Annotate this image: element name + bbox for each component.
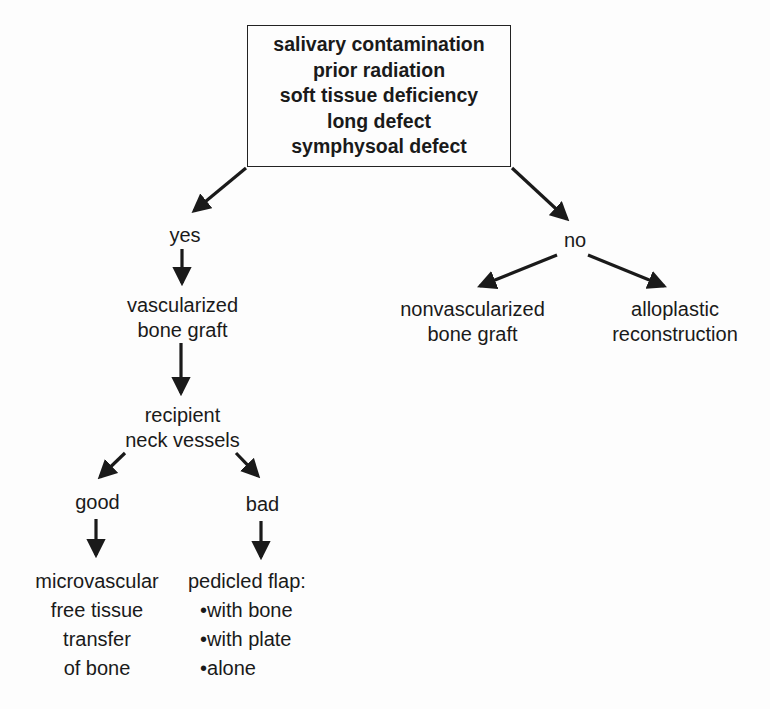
arrow-to-bad <box>236 453 258 476</box>
node-line: transfer <box>14 625 180 654</box>
microvascular-node: microvascular free tissue transfer of bo… <box>14 567 180 683</box>
bullet-item: •with plate <box>200 625 338 654</box>
criterion: prior radiation <box>248 58 510 84</box>
alloplastic-node: alloplastic reconstruction <box>590 297 760 347</box>
bullet-item: •alone <box>200 654 338 683</box>
criterion: soft tissue deficiency <box>248 83 510 109</box>
arrow-to-yes <box>194 168 246 211</box>
pedicled-flap-node: pedicled flap: •with bone •with plate •a… <box>188 567 338 683</box>
arrow-to-alloplastic <box>588 255 664 286</box>
criterion: symphysoal defect <box>248 134 510 160</box>
node-line: recipient <box>100 403 265 428</box>
yes-label: yes <box>155 223 215 248</box>
node-line: nonvascularized <box>375 297 570 322</box>
bad-label: bad <box>235 492 290 517</box>
criteria-box: salivary contamination prior radiation s… <box>247 25 511 167</box>
node-line: bone graft <box>100 318 265 343</box>
arrow-to-no <box>512 168 567 219</box>
bullet-item: •with bone <box>200 596 338 625</box>
node-line: of bone <box>14 654 180 683</box>
node-line: alloplastic <box>590 297 760 322</box>
pedicled-title: pedicled flap: <box>188 567 338 596</box>
node-line: reconstruction <box>590 322 760 347</box>
node-line: neck vessels <box>100 428 265 453</box>
node-line: bone graft <box>375 322 570 347</box>
nonvascularized-node: nonvascularized bone graft <box>375 297 570 347</box>
arrow-to-nonvascularized <box>480 255 557 286</box>
no-label: no <box>555 228 595 253</box>
good-label: good <box>60 490 135 515</box>
criterion: long defect <box>248 109 510 135</box>
vascularized-bone-graft-node: vascularized bone graft <box>100 293 265 343</box>
criterion: salivary contamination <box>248 32 510 58</box>
node-line: free tissue <box>14 596 180 625</box>
node-line: microvascular <box>14 567 180 596</box>
node-line: vascularized <box>100 293 265 318</box>
recipient-neck-vessels-node: recipient neck vessels <box>100 403 265 453</box>
arrow-to-good <box>100 453 125 477</box>
